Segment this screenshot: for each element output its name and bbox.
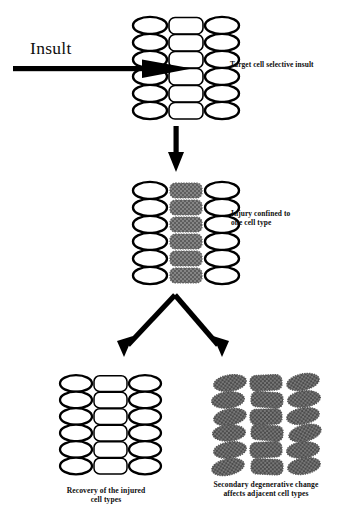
outcome-left-caption: Recovery of the injured cell types bbox=[36, 487, 176, 505]
cell-ellipse-healthy bbox=[133, 250, 167, 267]
cell-rect-healthy bbox=[94, 425, 127, 441]
cell-ellipse-healthy bbox=[133, 17, 167, 34]
cell-ellipse-healthy bbox=[60, 425, 92, 442]
cluster-injured-middle bbox=[133, 182, 239, 284]
cell-ellipse-healthy bbox=[133, 199, 167, 216]
cell-ellipse-healthy bbox=[129, 392, 161, 409]
cell-rect-degenerated bbox=[250, 408, 283, 425]
cell-rect-healthy bbox=[169, 86, 203, 103]
cell-ellipse-healthy bbox=[205, 233, 239, 250]
cell-rect-healthy bbox=[94, 376, 127, 392]
cell-ellipse-healthy bbox=[133, 85, 167, 102]
cell-ellipse-healthy bbox=[129, 425, 161, 442]
cell-column-right bbox=[285, 371, 323, 477]
branch-arrow-right bbox=[175, 295, 229, 357]
cell-injury-diagram: Insult Target cell selective insult Inju… bbox=[0, 0, 353, 528]
cell-column-middle-recovered bbox=[94, 376, 127, 474]
stage2-label-line2: one cell type bbox=[231, 219, 349, 228]
cell-ellipse-healthy bbox=[129, 441, 161, 458]
cell-rect-injured bbox=[170, 183, 202, 198]
cell-ellipse-degenerated bbox=[287, 389, 322, 409]
cell-rect-injured bbox=[170, 217, 202, 232]
cell-rect-degenerated bbox=[251, 458, 284, 475]
cell-rect-degenerated bbox=[250, 424, 283, 442]
cell-ellipse-healthy bbox=[133, 216, 167, 233]
cell-column-right bbox=[129, 375, 161, 474]
cluster-degenerated bbox=[210, 371, 323, 479]
cell-ellipse-healthy bbox=[205, 102, 239, 119]
cell-ellipse-healthy bbox=[133, 34, 167, 51]
progression-arrow bbox=[168, 126, 184, 172]
cell-ellipse-healthy bbox=[205, 250, 239, 267]
cell-ellipse-healthy bbox=[205, 34, 239, 51]
cell-ellipse-healthy bbox=[60, 408, 92, 425]
cell-ellipse-healthy bbox=[133, 233, 167, 250]
cell-ellipse-degenerated bbox=[211, 390, 246, 410]
cell-rect-healthy bbox=[94, 442, 127, 458]
cell-ellipse-healthy bbox=[60, 441, 92, 458]
cell-rect-healthy bbox=[169, 18, 203, 35]
stage1-label: Target cell selective insult bbox=[230, 61, 350, 70]
cell-ellipse-degenerated bbox=[286, 455, 321, 477]
cell-ellipse-degenerated bbox=[212, 372, 247, 393]
cell-ellipse-healthy bbox=[205, 68, 239, 85]
insult-label: Insult bbox=[30, 38, 72, 59]
cell-ellipse-healthy bbox=[205, 182, 239, 199]
cell-column-middle-injured bbox=[170, 183, 202, 283]
cell-ellipse-healthy bbox=[133, 182, 167, 199]
cell-ellipse-degenerated bbox=[287, 421, 323, 445]
diagram-canvas bbox=[0, 0, 353, 528]
cell-ellipse-degenerated bbox=[285, 405, 320, 427]
cell-rect-degenerated bbox=[250, 441, 283, 458]
cell-rect-injured bbox=[170, 234, 202, 249]
cell-ellipse-healthy bbox=[205, 17, 239, 34]
cell-ellipse-healthy bbox=[205, 267, 239, 284]
cell-ellipse-healthy bbox=[60, 375, 92, 392]
cell-rect-injured bbox=[170, 200, 202, 215]
cell-rect-healthy bbox=[169, 103, 203, 120]
outcome-right-caption: Secondary degenerative change affects ad… bbox=[183, 481, 349, 499]
cell-ellipse-healthy bbox=[129, 408, 161, 425]
cell-column-middle-degenerated bbox=[250, 374, 284, 475]
cell-ellipse-degenerated bbox=[286, 440, 321, 460]
cluster-recovered bbox=[60, 375, 161, 474]
cell-rect-healthy bbox=[94, 409, 127, 425]
cell-ellipse-healthy bbox=[60, 392, 92, 409]
cell-column-right bbox=[205, 182, 239, 284]
cell-rect-degenerated bbox=[250, 374, 283, 391]
cell-ellipse-healthy bbox=[205, 85, 239, 102]
cell-ellipse-degenerated bbox=[285, 371, 321, 394]
outcome-left-caption-line2: cell types bbox=[36, 496, 176, 505]
cell-ellipse-degenerated bbox=[213, 440, 248, 461]
cell-ellipse-healthy bbox=[133, 102, 167, 119]
cell-rect-healthy bbox=[169, 35, 203, 52]
cell-column-left bbox=[133, 182, 167, 284]
cell-rect-injured bbox=[170, 268, 202, 283]
cell-ellipse-healthy bbox=[133, 267, 167, 284]
cell-ellipse-degenerated bbox=[212, 424, 246, 443]
cell-rect-healthy bbox=[94, 392, 127, 408]
cell-ellipse-healthy bbox=[129, 458, 161, 475]
stage2-label: Injury confined to one cell type bbox=[231, 210, 349, 227]
cell-rect-injured bbox=[170, 251, 202, 266]
cell-ellipse-healthy bbox=[60, 458, 92, 475]
outcome-right-caption-line2: affects adjacent cell types bbox=[183, 490, 349, 499]
cell-ellipse-degenerated bbox=[210, 456, 246, 479]
cell-rect-healthy bbox=[94, 458, 127, 474]
cell-column-left bbox=[60, 375, 92, 474]
branch-arrow-left bbox=[117, 295, 175, 357]
cell-column-left bbox=[210, 372, 248, 478]
cell-ellipse-healthy bbox=[129, 375, 161, 392]
cell-rect-degenerated bbox=[251, 391, 284, 409]
